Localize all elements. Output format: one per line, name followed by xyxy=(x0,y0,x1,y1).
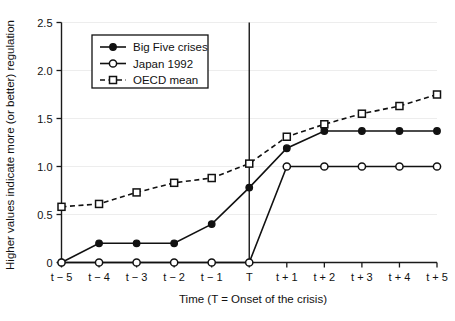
y-tick-label: 2.0 xyxy=(37,65,52,77)
data-point xyxy=(434,128,441,135)
x-tick-label: t + 4 xyxy=(389,271,411,283)
x-tick-label: t + 3 xyxy=(351,271,373,283)
data-point xyxy=(171,259,178,266)
chart-figure: 00.51.01.52.02.5 t − 5t − 4t − 3t − 2t −… xyxy=(0,0,455,321)
data-point xyxy=(171,240,178,247)
data-point xyxy=(321,121,328,128)
legend-item-label: Big Five crises xyxy=(133,41,208,53)
y-tick-label: 0.5 xyxy=(37,209,52,221)
y-tick-label: 2.5 xyxy=(37,17,52,29)
data-point xyxy=(283,133,290,140)
data-point xyxy=(208,175,215,182)
data-point xyxy=(208,221,215,228)
x-tick-label: t + 5 xyxy=(426,271,448,283)
x-tick-label: T xyxy=(246,271,253,283)
data-point xyxy=(133,259,140,266)
data-point xyxy=(246,259,253,266)
data-point xyxy=(133,240,140,247)
x-tick-label: t − 1 xyxy=(201,271,223,283)
x-tick-label: t − 4 xyxy=(88,271,110,283)
data-point xyxy=(396,163,403,170)
y-axis-title: Higher values indicate more (or better) … xyxy=(4,20,16,270)
data-point xyxy=(283,163,290,170)
y-tick-label: 1.5 xyxy=(37,113,52,125)
legend-marker-sample xyxy=(110,44,117,51)
data-point xyxy=(433,163,440,170)
data-point xyxy=(358,163,365,170)
legend-item[interactable]: OECD mean xyxy=(100,74,198,86)
data-point xyxy=(246,184,253,191)
data-point xyxy=(359,128,366,135)
legend-item-label: OECD mean xyxy=(133,74,198,86)
x-tick-label: t + 1 xyxy=(276,271,298,283)
legend-marker-sample xyxy=(109,60,116,67)
legend-item-label: Japan 1992 xyxy=(133,58,193,70)
data-point xyxy=(396,103,403,110)
data-point xyxy=(96,200,103,207)
legend-marker-sample xyxy=(110,77,117,84)
data-point xyxy=(208,259,215,266)
data-point xyxy=(246,160,253,167)
y-tick-label: 0 xyxy=(46,257,52,269)
line-chart-canvas: 00.51.01.52.02.5 t − 5t − 4t − 3t − 2t −… xyxy=(0,0,455,321)
x-tick-label: t − 2 xyxy=(163,271,185,283)
data-point xyxy=(434,91,441,98)
x-tick-label: t − 3 xyxy=(126,271,148,283)
data-point xyxy=(396,128,403,135)
data-point xyxy=(58,259,65,266)
x-axis-title: Time (T = Onset of the crisis) xyxy=(179,293,327,305)
y-axis: 00.51.01.52.02.5 xyxy=(37,17,61,269)
data-point xyxy=(321,163,328,170)
data-point xyxy=(284,145,291,152)
legend-item[interactable]: Japan 1992 xyxy=(100,58,193,70)
x-tick-label: t − 5 xyxy=(51,271,73,283)
data-point xyxy=(133,189,140,196)
data-point xyxy=(321,128,328,135)
data-point xyxy=(358,110,365,117)
y-tick-label: 1.0 xyxy=(37,161,52,173)
data-point xyxy=(58,203,65,210)
data-point xyxy=(95,259,102,266)
data-point xyxy=(171,179,178,186)
x-tick-label: t + 2 xyxy=(313,271,335,283)
data-point xyxy=(96,240,103,247)
chart-legend[interactable]: Big Five crisesJapan 1992OECD mean xyxy=(92,35,208,88)
